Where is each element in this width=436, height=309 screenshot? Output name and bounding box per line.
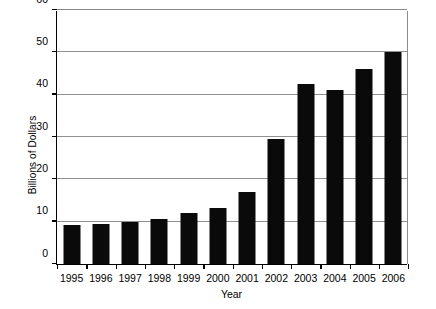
bar bbox=[122, 222, 139, 264]
y-axis-label: 40 bbox=[36, 77, 48, 89]
y-axis-label: 50 bbox=[36, 35, 48, 47]
bar-slot bbox=[174, 11, 203, 264]
x-axis-label: 2002 bbox=[265, 272, 288, 284]
bar bbox=[209, 208, 226, 264]
x-axis-tick bbox=[262, 264, 263, 269]
y-axis-label: 0 bbox=[42, 247, 48, 259]
bar-slot bbox=[350, 11, 379, 264]
x-axis-tick bbox=[57, 264, 58, 269]
x-axis-label: 2000 bbox=[206, 272, 229, 284]
bar-slot bbox=[291, 11, 320, 264]
bar bbox=[239, 192, 256, 264]
bar bbox=[385, 52, 402, 264]
x-axis-title: Year bbox=[56, 288, 407, 300]
x-axis-label: 1996 bbox=[89, 272, 112, 284]
bar-slot bbox=[145, 11, 174, 264]
x-axis-tick bbox=[145, 264, 146, 269]
x-axis-label: 2006 bbox=[382, 272, 405, 284]
x-axis-label: 2005 bbox=[352, 272, 375, 284]
x-axis-label: 2003 bbox=[294, 272, 317, 284]
bar bbox=[180, 213, 197, 264]
bar-chart: Billions of Dollars 0102030405060 199519… bbox=[0, 0, 436, 309]
x-axis-label: 1999 bbox=[177, 272, 200, 284]
bar bbox=[63, 225, 80, 264]
x-axis-tick bbox=[116, 264, 117, 269]
x-axis-tick bbox=[86, 264, 87, 269]
y-axis-label: 20 bbox=[36, 162, 48, 174]
bar-slot bbox=[86, 11, 115, 264]
x-axis-label: 2001 bbox=[235, 272, 258, 284]
bar bbox=[297, 84, 314, 264]
gridline bbox=[57, 9, 407, 10]
x-axis-tick bbox=[203, 264, 204, 269]
x-axis-tick bbox=[379, 264, 380, 269]
bar-slot bbox=[379, 11, 408, 264]
bar-series bbox=[57, 11, 407, 264]
bar-slot bbox=[203, 11, 232, 264]
bar bbox=[326, 90, 343, 264]
x-axis-tick bbox=[350, 264, 351, 269]
bar bbox=[151, 219, 168, 264]
y-axis-label: 10 bbox=[36, 204, 48, 216]
bar-slot bbox=[320, 11, 349, 264]
bar bbox=[356, 69, 373, 264]
y-axis-label: 60 bbox=[36, 0, 48, 5]
y-axis-label: 30 bbox=[36, 120, 48, 132]
x-axis-label: 1997 bbox=[118, 272, 141, 284]
bar bbox=[268, 139, 285, 264]
bar bbox=[92, 224, 109, 264]
x-axis-label: 1998 bbox=[148, 272, 171, 284]
bar-slot bbox=[262, 11, 291, 264]
plot-area: 0102030405060 19951996199719981999200020… bbox=[56, 11, 407, 265]
bar-slot bbox=[116, 11, 145, 264]
bar-slot bbox=[57, 11, 86, 264]
x-axis-tick bbox=[408, 264, 409, 269]
x-axis-tick bbox=[233, 264, 234, 269]
x-axis-tick bbox=[320, 264, 321, 269]
y-axis-tick bbox=[52, 9, 57, 10]
x-axis-label: 2004 bbox=[323, 272, 346, 284]
x-axis-tick bbox=[174, 264, 175, 269]
x-axis-tick bbox=[291, 264, 292, 269]
x-axis-label: 1995 bbox=[60, 272, 83, 284]
bar-slot bbox=[233, 11, 262, 264]
